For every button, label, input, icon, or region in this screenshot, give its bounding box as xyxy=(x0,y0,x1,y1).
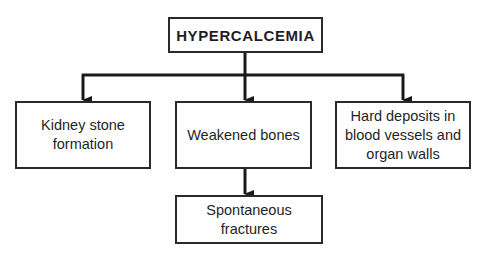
node-hard-deposits: Hard deposits in blood vessels and organ… xyxy=(335,101,471,169)
node-label: Weakened bones xyxy=(187,126,300,145)
node-hypercalcemia: HYPERCALCEMIA xyxy=(168,17,323,53)
node-kidney-stone: Kidney stone formation xyxy=(15,101,151,169)
node-label: HYPERCALCEMIA xyxy=(176,26,315,45)
node-label: Spontaneous fractures xyxy=(206,201,291,239)
node-label: Hard deposits in blood vessels and organ… xyxy=(345,107,461,164)
node-spontaneous-fractures: Spontaneous fractures xyxy=(175,195,323,244)
node-label: Kidney stone formation xyxy=(41,116,125,154)
node-weakened-bones: Weakened bones xyxy=(175,101,312,169)
